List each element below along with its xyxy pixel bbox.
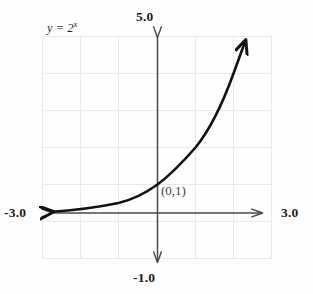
equation-base: y = 2 — [47, 21, 73, 35]
x-axis-max-label: 3.0 — [281, 206, 298, 220]
y-axis-max-label: 5.0 — [136, 10, 153, 24]
plot-canvas — [0, 0, 313, 294]
equation-exponent: x — [73, 19, 77, 29]
y-axis-min-label: -1.0 — [133, 271, 155, 285]
equation-label: y = 2x — [47, 22, 77, 35]
graph-figure: 5.0 -1.0 -3.0 3.0 y = 2x (0,1) — [0, 0, 313, 294]
point-annotation-label: (0,1) — [161, 184, 186, 197]
x-axis-min-label: -3.0 — [4, 206, 26, 220]
